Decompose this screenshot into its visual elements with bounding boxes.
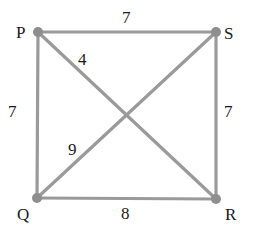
edge-q-r [37,198,216,199]
node-label-p: P [16,23,25,42]
graph-diagram: P S Q R 7 7 7 8 4 9 [0,0,257,232]
weight-q-r: 8 [121,204,130,223]
node-p [33,27,43,37]
weight-p-s: 7 [122,8,131,27]
node-s [211,27,221,37]
node-q [32,193,42,203]
node-r [211,194,221,204]
node-label-r: R [225,205,237,224]
edge-p-q [37,32,38,198]
weight-p-q: 7 [8,102,17,121]
weight-s-r: 7 [224,102,233,121]
node-label-s: S [224,24,233,43]
weight-p-r: 4 [78,50,87,69]
weight-q-s: 9 [68,140,77,159]
node-label-q: Q [17,205,29,224]
